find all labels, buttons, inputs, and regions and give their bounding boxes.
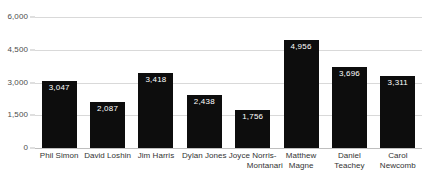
bar-slot: 2,087: [90, 17, 125, 148]
bar[interactable]: 2,438: [187, 95, 222, 148]
bar-chart: 01,5003,0004,5006,000 3,0472,0873,4182,4…: [0, 0, 431, 185]
bar[interactable]: 4,956: [284, 40, 319, 148]
bar[interactable]: 3,418: [138, 73, 173, 148]
category-label-line: Carol: [368, 151, 428, 161]
category-label-line: Newcomb: [368, 161, 428, 171]
bar-value-label: 1,756: [235, 113, 270, 121]
bar-slot: 1,756: [235, 17, 270, 148]
y-axis-tick-label: 0: [0, 144, 28, 152]
y-axis-tick-label: 6,000: [0, 13, 28, 21]
bar[interactable]: 3,696: [332, 67, 367, 148]
bar-value-label: 3,311: [380, 79, 415, 87]
bar-slot: 3,696: [332, 17, 367, 148]
bar[interactable]: 1,756: [235, 110, 270, 148]
y-axis-tick-label: 4,500: [0, 46, 28, 54]
x-axis-category-label: CarolNewcomb: [368, 151, 428, 171]
bar-value-label: 4,956: [284, 43, 319, 51]
bar[interactable]: 2,087: [90, 102, 125, 148]
bar-value-label: 3,047: [42, 84, 77, 92]
bar[interactable]: 3,311: [380, 76, 415, 148]
bar-value-label: 2,087: [90, 105, 125, 113]
bar-slot: 4,956: [284, 17, 319, 148]
bar-slot: 3,311: [380, 17, 415, 148]
bar-slot: 3,418: [138, 17, 173, 148]
plot-area: 3,0472,0873,4182,4381,7564,9563,6963,311: [35, 17, 422, 148]
bar-value-label: 3,418: [138, 76, 173, 84]
gridline: [35, 148, 422, 149]
bar[interactable]: 3,047: [42, 81, 77, 148]
y-axis-tick-label: 1,500: [0, 111, 28, 119]
bar-slot: 2,438: [187, 17, 222, 148]
bar-slot: 3,047: [42, 17, 77, 148]
y-axis-tick-label: 3,000: [0, 79, 28, 87]
bar-value-label: 2,438: [187, 98, 222, 106]
bar-value-label: 3,696: [332, 70, 367, 78]
